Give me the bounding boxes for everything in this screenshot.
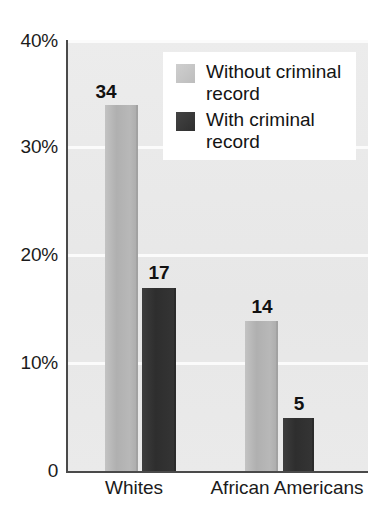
bar-african-americans-with-criminal-record	[283, 418, 314, 472]
bar-whites-without-criminal-record	[105, 105, 138, 472]
y-tick-label-40: 40%	[21, 31, 58, 50]
x-axis-line	[66, 471, 368, 473]
legend: Without criminal record With criminal re…	[163, 52, 356, 160]
legend-entry-without-criminal-record: Without criminal record	[176, 61, 356, 105]
dark-gray-swatch-icon	[176, 112, 195, 131]
bar-whites-with-criminal-record	[142, 288, 176, 472]
bar-value-aa-with: 5	[285, 394, 313, 413]
y-tick-label-0: 0	[48, 461, 58, 480]
y-tick-label-30: 30%	[21, 137, 58, 156]
x-category-label-african-americans: African Americans	[192, 478, 382, 499]
light-gray-swatch-icon	[176, 64, 195, 83]
legend-entry-with-criminal-record: With criminal record	[176, 109, 356, 153]
bar-chart: 40% 30% 20% 10% 0 34 17 14 5 Whites Afri…	[0, 0, 384, 510]
bar-value-aa-without: 14	[244, 297, 280, 316]
legend-label-with-criminal-record: With criminal record	[206, 109, 356, 153]
bar-value-whites-without: 34	[88, 82, 124, 101]
bar-value-whites-with: 17	[141, 263, 177, 282]
bar-african-americans-without-criminal-record	[245, 321, 278, 472]
y-tick-label-10: 10%	[21, 353, 58, 372]
legend-label-without-criminal-record: Without criminal record	[206, 61, 356, 105]
gridline-40	[68, 40, 368, 43]
x-category-label-whites: Whites	[78, 478, 190, 499]
y-axis-line	[66, 40, 68, 473]
y-tick-label-20: 20%	[21, 245, 58, 264]
